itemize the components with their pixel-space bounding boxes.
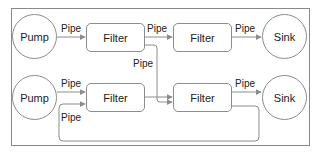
filter-node-4[interactable]: Filter [173, 83, 232, 112]
pipe-filter-diagram: Pump Filter Filter Sink Pump Filter Filt… [0, 0, 322, 155]
node-label: Pump [20, 92, 49, 104]
filter-node-3[interactable]: Filter [86, 83, 145, 112]
sink-node-2[interactable]: Sink [262, 75, 307, 120]
edge-label: Pipe [61, 24, 81, 34]
sink-node-1[interactable]: Sink [262, 14, 307, 59]
node-label: Filter [103, 32, 127, 44]
node-label: Filter [190, 32, 214, 44]
pump-node-1[interactable]: Pump [12, 14, 57, 59]
edge-label: Pipe [147, 24, 167, 34]
edge-label: Pipe [61, 113, 81, 123]
edge-filter1-filter4 [145, 45, 172, 102]
node-label: Filter [190, 92, 214, 104]
filter-node-1[interactable]: Filter [86, 23, 145, 52]
node-label: Sink [274, 92, 295, 104]
edge-label: Pipe [61, 79, 81, 89]
pump-node-2[interactable]: Pump [12, 75, 57, 120]
node-label: Sink [274, 31, 295, 43]
filter-node-2[interactable]: Filter [173, 23, 232, 52]
edge-label: Pipe [235, 24, 255, 34]
node-label: Filter [103, 92, 127, 104]
edge-label: Pipe [235, 79, 255, 89]
edge-label: Pipe [133, 59, 153, 69]
node-label: Pump [20, 31, 49, 43]
